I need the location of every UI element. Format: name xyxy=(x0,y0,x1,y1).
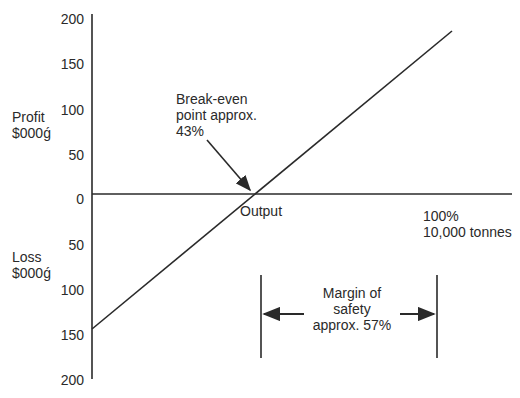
y-tick-150-top: 150 xyxy=(44,56,84,72)
breakeven-line2: point approx. xyxy=(176,107,257,123)
y-tick-0: 0 xyxy=(44,191,84,207)
output-label: Output xyxy=(240,203,282,219)
breakeven-arrow-icon xyxy=(207,140,250,190)
breakeven-line1: Break-even xyxy=(176,91,257,107)
margin-annotation: Margin of safety approx. 57% xyxy=(304,285,400,333)
breakeven-line3: 43% xyxy=(176,123,257,139)
margin-line1: Margin of xyxy=(304,285,400,301)
y-tick-200-top: 200 xyxy=(44,11,84,27)
margin-line2: safety xyxy=(304,301,400,317)
y-tick-150-bottom: 150 xyxy=(44,327,84,343)
profit-label-line1: Profit xyxy=(12,109,51,125)
profit-label: Profit $000ǵ xyxy=(12,109,51,141)
loss-label: Loss $000ǵ xyxy=(12,249,51,281)
y-tick-50-top: 50 xyxy=(44,147,84,163)
loss-label-line1: Loss xyxy=(12,249,51,265)
profit-label-line2: $000ǵ xyxy=(12,125,51,141)
loss-label-line2: $000ǵ xyxy=(12,265,51,281)
end-label: 100% 10,000 tonnes xyxy=(423,208,512,240)
margin-line3: approx. 57% xyxy=(304,317,400,333)
y-tick-100-bottom: 100 xyxy=(44,282,84,298)
end-label-line1: 100% xyxy=(423,208,512,224)
breakeven-annotation: Break-even point approx. 43% xyxy=(176,91,257,139)
y-tick-200-bottom: 200 xyxy=(44,372,84,388)
end-label-line2: 10,000 tonnes xyxy=(423,224,512,240)
